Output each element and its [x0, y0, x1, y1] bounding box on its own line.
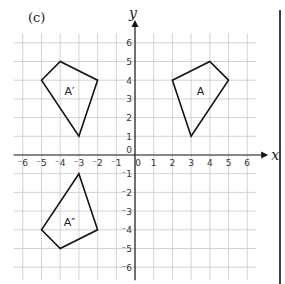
- y-tick-label: 1: [126, 132, 132, 142]
- shape-label-A: A: [197, 85, 205, 98]
- coordinate-figure: xy ⁻6⁻5⁻4⁻3⁻2⁻101234560654321⁻1⁻2⁻3⁻4⁻5⁻…: [0, 0, 285, 284]
- x-tick-label: 0: [135, 158, 141, 168]
- x-tick-label: 3: [188, 158, 194, 168]
- y-tick-label: ⁻4: [122, 225, 133, 235]
- x-tick-label: 6: [244, 158, 250, 168]
- x-tick-label: ⁻1: [111, 158, 121, 168]
- x-tick-label: ⁻4: [55, 158, 66, 168]
- x-tick-label: ⁻5: [36, 158, 46, 168]
- x-tick-label: ⁻6: [18, 158, 29, 168]
- x-tick-label: 5: [226, 158, 232, 168]
- shape-label-A-prime: A′: [65, 85, 76, 98]
- x-axis-label: x: [271, 147, 279, 163]
- y-tick-label: ⁻3: [122, 207, 132, 217]
- y-tick-label: 2: [126, 113, 132, 123]
- y-tick-label: 5: [126, 57, 132, 67]
- y-tick-label: ⁻5: [122, 244, 132, 254]
- shape-label-A-double-prime: A″: [64, 216, 76, 229]
- y-tick-label: 0: [126, 145, 132, 155]
- part-label: (c): [28, 10, 45, 25]
- x-tick-label: ⁻2: [92, 158, 102, 168]
- y-tick-label: 6: [126, 38, 132, 48]
- y-axis-label: y: [128, 5, 138, 21]
- y-tick-label: ⁻2: [122, 188, 132, 198]
- axes: xy: [13, 5, 279, 280]
- y-tick-label: ⁻1: [122, 169, 132, 179]
- x-tick-label: ⁻3: [74, 158, 84, 168]
- x-tick-label: 2: [170, 158, 176, 168]
- y-tick-label: 4: [126, 76, 132, 86]
- x-tick-label: 1: [151, 158, 157, 168]
- x-axis-arrow-icon: [261, 152, 268, 159]
- y-tick-label: ⁻6: [122, 263, 133, 273]
- x-tick-label: 4: [207, 158, 213, 168]
- y-tick-label: 3: [126, 94, 132, 104]
- y-axis-arrow-icon: [132, 20, 139, 27]
